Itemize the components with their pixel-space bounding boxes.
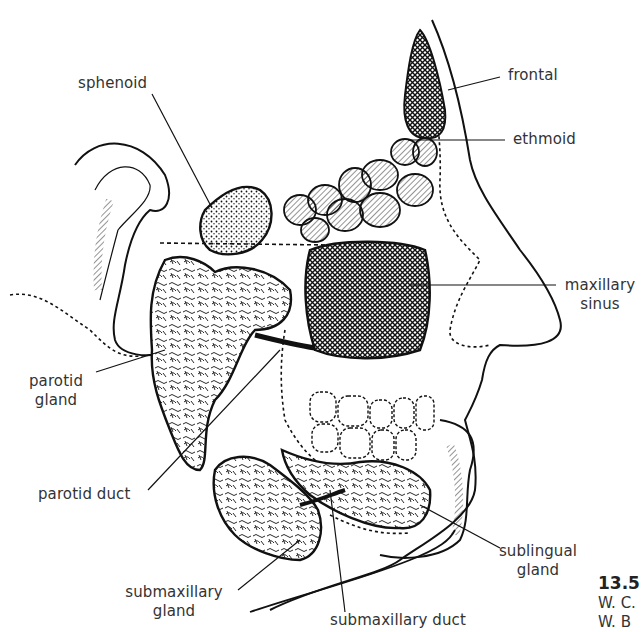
orbit-line-dotted	[160, 243, 330, 245]
label-maxillary-sinus-line2: sinus	[559, 295, 641, 314]
figure-credit-line2: W. B	[598, 613, 640, 632]
label-maxillary-sinus-line1: maxillary	[559, 276, 641, 295]
parotid-duct	[255, 335, 315, 348]
label-ethmoid: ethmoid	[513, 130, 576, 149]
label-sphenoid: sphenoid	[78, 74, 147, 93]
label-sublingual-gland-line2: gland	[495, 561, 581, 580]
teeth	[310, 392, 434, 460]
label-maxillary-sinus: maxillary sinus	[559, 276, 641, 314]
label-sublingual-gland-line1: sublingual	[495, 542, 581, 561]
label-sublingual-gland: sublingual gland	[495, 542, 581, 580]
frontal-sinus	[404, 30, 445, 138]
figure-number: 13.5	[598, 573, 640, 593]
parotid-gland	[151, 257, 291, 470]
label-frontal: frontal	[508, 66, 558, 85]
head-anatomy-illustration	[0, 0, 641, 632]
label-submaxillary-duct: submaxillary duct	[330, 611, 466, 630]
ethmoid-cells	[284, 138, 437, 242]
label-parotid-gland-line1: parotid	[26, 372, 86, 391]
figure-caption: 13.5 W. C. W. B	[598, 574, 640, 632]
label-submaxillary-gland-line2: gland	[120, 602, 228, 621]
maxillary-sinus	[305, 242, 429, 359]
label-parotid-gland: parotid gland	[26, 372, 86, 410]
label-submaxillary-gland-line1: submaxillary	[120, 583, 228, 602]
label-parotid-duct: parotid duct	[38, 485, 130, 504]
label-parotid-gland-line2: gland	[26, 391, 86, 410]
figure-credit-line1: W. C.	[598, 594, 640, 613]
neck-back-dotted	[10, 294, 150, 356]
label-submaxillary-gland: submaxillary gland	[120, 583, 228, 621]
